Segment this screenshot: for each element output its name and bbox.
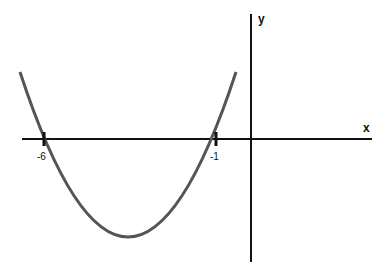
y-axis-label: y	[258, 12, 265, 26]
tick-label-neg6: -6	[37, 151, 46, 162]
tick-label-neg1: -1	[210, 151, 219, 162]
parabola-curve	[20, 72, 236, 237]
x-axis-label: x	[363, 121, 370, 135]
graph-canvas	[0, 0, 390, 271]
